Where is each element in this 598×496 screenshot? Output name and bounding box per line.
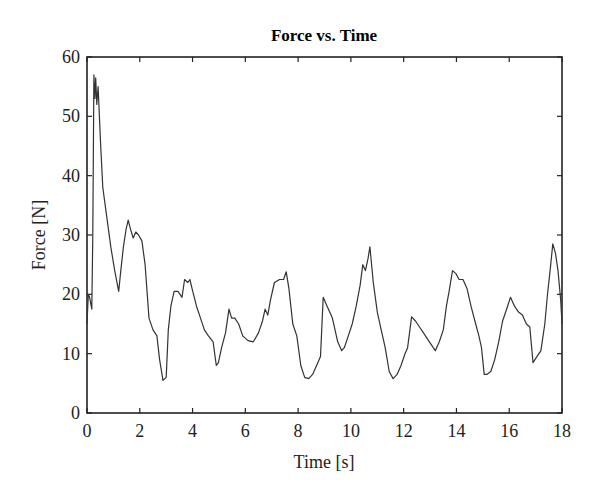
y-tick-label: 20 — [62, 284, 80, 304]
chart-title: Force vs. Time — [271, 26, 378, 45]
x-tick-label: 0 — [83, 421, 92, 441]
x-tick-label: 2 — [135, 421, 144, 441]
y-tick-labels: 0102030405060 — [62, 47, 80, 423]
y-tick-label: 0 — [71, 403, 80, 423]
x-tick-label: 10 — [342, 421, 360, 441]
y-tick-label: 30 — [62, 225, 80, 245]
axis-ticks — [87, 57, 562, 413]
x-tick-label: 14 — [447, 421, 465, 441]
y-tick-label: 40 — [62, 166, 80, 186]
y-tick-label: 10 — [62, 344, 80, 364]
y-tick-label: 50 — [62, 106, 80, 126]
plot-frame — [87, 57, 562, 413]
x-tick-label: 18 — [553, 421, 571, 441]
x-tick-label: 6 — [241, 421, 250, 441]
force-series-line — [87, 75, 562, 381]
x-tick-label: 4 — [188, 421, 197, 441]
x-tick-labels: 024681012141618 — [83, 421, 572, 441]
x-tick-label: 16 — [500, 421, 518, 441]
y-axis-label: Force [N] — [29, 200, 49, 270]
y-tick-label: 60 — [62, 47, 80, 67]
x-tick-label: 12 — [395, 421, 413, 441]
force-vs-time-chart: Force vs. Time 024681012141618 010203040… — [0, 0, 598, 496]
x-axis-label: Time [s] — [294, 452, 355, 472]
x-tick-label: 8 — [294, 421, 303, 441]
